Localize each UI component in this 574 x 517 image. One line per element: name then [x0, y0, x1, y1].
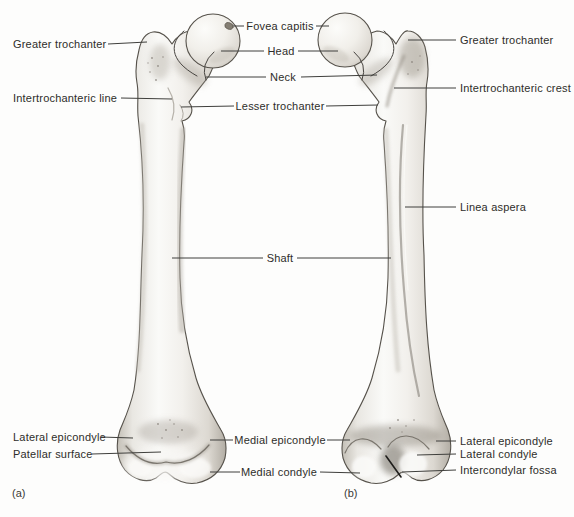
view-b-caption: (b)	[344, 487, 357, 499]
label-medial-condyle: Medial condyle	[241, 466, 317, 478]
label-lateral-epicondyle-right: Lateral epicondyle	[460, 435, 553, 447]
label-intertrochanteric-line: Intertrochanteric line	[13, 92, 117, 104]
label-fovea-capitis: Fovea capitis	[246, 20, 313, 32]
label-head: Head	[267, 45, 294, 57]
label-lateral-condyle: Lateral condyle	[460, 448, 538, 460]
label-patellar-surface: Patellar surface	[13, 448, 93, 460]
label-neck: Neck	[270, 71, 296, 83]
label-intertrochanteric-crest: Intertrochanteric crest	[460, 82, 571, 94]
label-greater-trochanter-left: Greater trochanter	[13, 38, 106, 50]
view-a-caption: (a)	[12, 487, 25, 499]
label-intercondylar-fossa: Intercondylar fossa	[460, 464, 557, 476]
label-shaft: Shaft	[267, 252, 294, 264]
femur-anterior-view	[117, 14, 240, 483]
label-greater-trochanter-right: Greater trochanter	[460, 34, 553, 46]
label-linea-aspera: Linea aspera	[460, 201, 526, 213]
femur-posterior-view	[318, 13, 451, 483]
femur-diagram: Greater trochanter Intertrochanteric lin…	[0, 0, 574, 517]
label-lesser-trochanter: Lesser trochanter	[236, 100, 325, 112]
label-medial-epicondyle: Medial epicondyle	[234, 434, 325, 446]
label-lateral-epicondyle-left: Lateral epicondyle	[13, 431, 106, 443]
femur-posterior-body	[342, 31, 451, 484]
lesser-trochanter-leader-right	[326, 105, 378, 106]
